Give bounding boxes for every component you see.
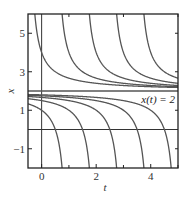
- y-tick-label: 1: [20, 104, 26, 116]
- solution-curve: [87, 0, 178, 85]
- y-axis-label: x: [4, 88, 16, 94]
- y-tick-label: 3: [20, 66, 26, 78]
- y-tick-label: 5: [20, 27, 26, 39]
- x-tick-label: 2: [93, 170, 99, 182]
- solution-curve: [28, 104, 64, 197]
- x-tick-label: 4: [148, 170, 154, 182]
- y-tick-label: −1: [13, 143, 25, 155]
- equilibrium-label: x(t) = 2: [140, 93, 175, 106]
- x-tick-label: 0: [39, 170, 45, 182]
- chart: 024 −1135 t x x(t) = 2: [0, 0, 188, 197]
- solution-curve: [60, 0, 178, 87]
- solution-curve: [115, 0, 178, 83]
- reference-lines: [28, 14, 178, 168]
- x-axis-label: t: [103, 181, 107, 193]
- solution-curve: [33, 0, 178, 88]
- solution-curve: [142, 0, 178, 78]
